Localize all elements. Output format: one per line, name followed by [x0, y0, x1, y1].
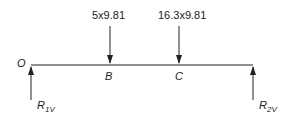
load-label-c: 16.3x9.81 [158, 10, 206, 21]
point-label-c: C [175, 71, 183, 82]
reaction-label-1: R1V [37, 100, 55, 114]
reaction-label-2: R2V [259, 100, 277, 114]
point-label-o: O [17, 58, 26, 69]
load-label-b: 5x9.81 [92, 10, 125, 21]
point-label-b: B [105, 71, 112, 82]
